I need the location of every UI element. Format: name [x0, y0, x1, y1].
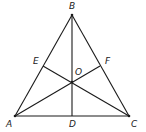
label-b: B	[69, 1, 75, 11]
segment-bc	[72, 15, 129, 116]
point-b	[71, 14, 74, 17]
label-d: D	[69, 119, 76, 129]
point-o	[71, 81, 74, 84]
label-e: E	[33, 56, 39, 66]
label-a: A	[5, 119, 12, 129]
point-c	[128, 115, 131, 118]
point-a	[14, 115, 17, 118]
segment-ce	[43, 66, 129, 116]
label-f: F	[105, 56, 111, 66]
triangle-diagram: A B C D E F O	[0, 0, 146, 132]
label-c: C	[131, 119, 138, 129]
segment-af	[15, 66, 100, 116]
segment-ab	[15, 15, 72, 116]
label-o: O	[75, 67, 82, 77]
